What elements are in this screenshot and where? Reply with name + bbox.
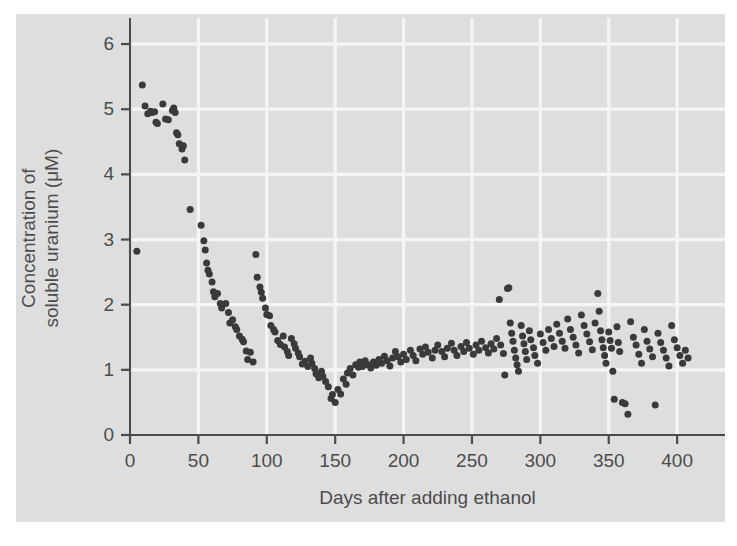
data-point xyxy=(676,352,683,359)
data-point xyxy=(142,102,149,109)
y-axis-tick-label: 2 xyxy=(74,295,114,314)
plot-area xyxy=(130,18,725,435)
data-point xyxy=(553,321,560,328)
data-point xyxy=(198,222,205,229)
data-point xyxy=(671,336,678,343)
data-point xyxy=(531,352,538,359)
data-point xyxy=(233,326,240,333)
y-axis-title-line-1: Concentration of xyxy=(17,73,40,403)
data-point xyxy=(630,334,637,341)
data-point xyxy=(534,360,541,367)
x-axis-tick-label: 200 xyxy=(374,451,434,470)
data-point xyxy=(622,400,629,407)
data-point xyxy=(540,339,547,346)
data-point xyxy=(512,355,519,362)
data-point xyxy=(545,326,552,333)
data-point xyxy=(530,344,537,351)
data-point xyxy=(596,308,603,315)
data-point xyxy=(493,335,500,342)
data-point xyxy=(247,349,254,356)
x-axis-tick-label: 0 xyxy=(100,451,160,470)
data-point xyxy=(172,109,179,116)
data-point xyxy=(515,368,522,375)
data-point xyxy=(500,350,507,357)
data-point xyxy=(349,372,356,379)
data-point xyxy=(572,342,579,349)
data-point xyxy=(607,337,614,344)
data-point xyxy=(252,251,259,258)
data-point xyxy=(507,319,514,326)
data-point xyxy=(296,353,303,360)
data-point xyxy=(448,340,455,347)
data-point xyxy=(570,334,577,341)
data-point xyxy=(522,348,529,355)
data-point xyxy=(425,349,432,356)
data-point xyxy=(229,316,236,323)
y-axis-tick-label: 0 xyxy=(74,425,114,444)
data-point xyxy=(652,402,659,409)
data-point xyxy=(209,278,216,285)
x-axis-tick-label: 100 xyxy=(237,451,297,470)
data-point xyxy=(434,342,441,349)
data-point xyxy=(453,352,460,359)
data-point xyxy=(180,142,187,149)
data-point xyxy=(154,120,161,127)
data-point xyxy=(214,290,221,297)
x-axis-tick-label: 400 xyxy=(647,451,707,470)
data-point xyxy=(603,360,610,367)
data-point xyxy=(682,347,689,354)
data-point xyxy=(561,345,568,352)
data-point xyxy=(271,329,278,336)
data-point xyxy=(222,300,229,307)
data-point xyxy=(250,359,257,366)
data-point xyxy=(466,345,473,352)
data-point xyxy=(616,348,623,355)
data-point xyxy=(638,360,645,367)
data-point xyxy=(159,101,166,108)
data-point xyxy=(505,284,512,291)
y-axis-tick-label: 1 xyxy=(74,360,114,379)
data-point xyxy=(280,332,287,339)
data-point xyxy=(508,330,515,337)
figure-container: 0123456 050100150200250300350400 Days af… xyxy=(0,0,737,546)
data-point xyxy=(386,362,393,369)
data-point xyxy=(259,295,266,302)
data-point xyxy=(519,332,526,339)
data-point xyxy=(556,330,563,337)
scatter-plot-svg xyxy=(130,18,725,435)
data-point xyxy=(624,411,631,418)
data-point xyxy=(337,390,344,397)
data-point xyxy=(559,338,566,345)
data-point xyxy=(206,271,213,278)
data-point xyxy=(685,355,692,362)
data-point xyxy=(548,335,555,342)
data-point xyxy=(627,318,634,325)
data-point xyxy=(551,343,558,350)
data-point xyxy=(496,296,503,303)
data-point xyxy=(657,339,664,346)
data-point xyxy=(490,345,497,352)
y-axis-title: Concentration of soluble uranium (μM) xyxy=(17,73,63,403)
data-point xyxy=(202,246,209,253)
data-point xyxy=(475,347,482,354)
data-point xyxy=(679,360,686,367)
data-point xyxy=(609,368,616,375)
data-point xyxy=(329,391,336,398)
data-point xyxy=(285,352,292,359)
x-axis-tick-label: 350 xyxy=(579,451,639,470)
data-point xyxy=(537,331,544,338)
data-point xyxy=(240,338,247,345)
data-point xyxy=(501,372,508,379)
data-point xyxy=(523,356,530,363)
data-point xyxy=(592,319,599,326)
data-point xyxy=(527,336,534,343)
x-axis-title: Days after adding ethanol xyxy=(130,487,725,509)
data-point xyxy=(665,362,672,369)
data-point xyxy=(597,327,604,334)
data-point xyxy=(325,383,332,390)
data-point xyxy=(608,345,615,352)
data-point xyxy=(497,342,504,349)
data-point xyxy=(646,345,653,352)
data-point xyxy=(644,338,651,345)
data-point xyxy=(633,342,640,349)
